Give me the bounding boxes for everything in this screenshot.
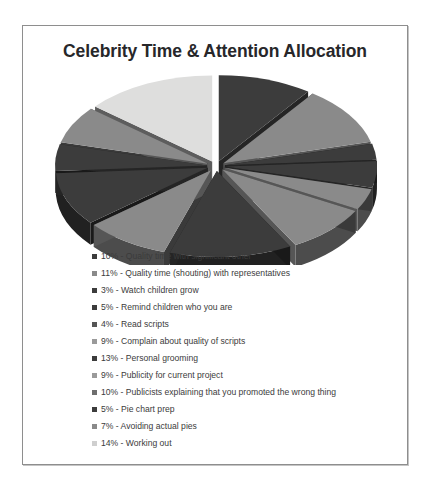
legend-swatch-icon [92, 407, 97, 412]
pie-chart-svg [23, 70, 409, 265]
legend-item-label: 7% - Avoiding actual pies [101, 422, 197, 431]
legend-item[interactable]: 14% - Working out [23, 435, 409, 452]
chart-page: Celebrity Time & Attention Allocation 10… [0, 0, 429, 490]
legend-swatch-icon [92, 441, 97, 446]
legend-item-label: 4% - Read scripts [101, 320, 169, 329]
legend-item[interactable]: 10% - Publicists explaining that you pro… [23, 384, 409, 401]
legend-item-label: 5% - Pie chart prep [101, 405, 175, 414]
legend-item[interactable]: 5% - Remind children who you are [23, 299, 409, 316]
legend-swatch-icon [92, 390, 97, 395]
legend-swatch-icon [92, 356, 97, 361]
legend-item-label: 14% - Working out [101, 439, 172, 448]
legend-item-label: 11% - Quality time (shouting) with repre… [101, 269, 290, 278]
legend-item[interactable]: 13% - Personal grooming [23, 350, 409, 367]
legend-swatch-icon [92, 254, 97, 259]
legend-swatch-icon [92, 271, 97, 276]
legend-item[interactable]: 3% - Watch children grow [23, 282, 409, 299]
pie-chart [23, 70, 409, 265]
legend-item[interactable]: 10% - Quality time with significant othe… [23, 248, 409, 265]
chart-legend: 10% - Quality time with significant othe… [23, 248, 409, 452]
legend-item[interactable]: 7% - Avoiding actual pies [23, 418, 409, 435]
legend-swatch-icon [92, 339, 97, 344]
legend-item-label: 9% - Complain about quality of scripts [101, 337, 245, 346]
legend-swatch-icon [92, 373, 97, 378]
legend-swatch-icon [92, 288, 97, 293]
legend-item[interactable]: 9% - Complain about quality of scripts [23, 333, 409, 350]
legend-item[interactable]: 11% - Quality time (shouting) with repre… [23, 265, 409, 282]
page-title: Celebrity Time & Attention Allocation [23, 42, 407, 61]
legend-swatch-icon [92, 305, 97, 310]
legend-item[interactable]: 4% - Read scripts [23, 316, 409, 333]
legend-item[interactable]: 5% - Pie chart prep [23, 401, 409, 418]
legend-swatch-icon [92, 322, 97, 327]
legend-item-label: 3% - Watch children grow [101, 286, 199, 295]
legend-swatch-icon [92, 424, 97, 429]
legend-item-label: 10% - Publicists explaining that you pro… [101, 388, 336, 397]
legend-item-label: 13% - Personal grooming [101, 354, 198, 363]
legend-item-label: 9% - Publicity for current project [101, 371, 223, 380]
legend-item[interactable]: 9% - Publicity for current project [23, 367, 409, 384]
legend-item-label: 5% - Remind children who you are [101, 303, 232, 312]
pie-slice-tops [55, 75, 377, 257]
chart-frame: Celebrity Time & Attention Allocation 10… [22, 25, 408, 465]
legend-item-label: 10% - Quality time with significant othe… [101, 252, 251, 261]
